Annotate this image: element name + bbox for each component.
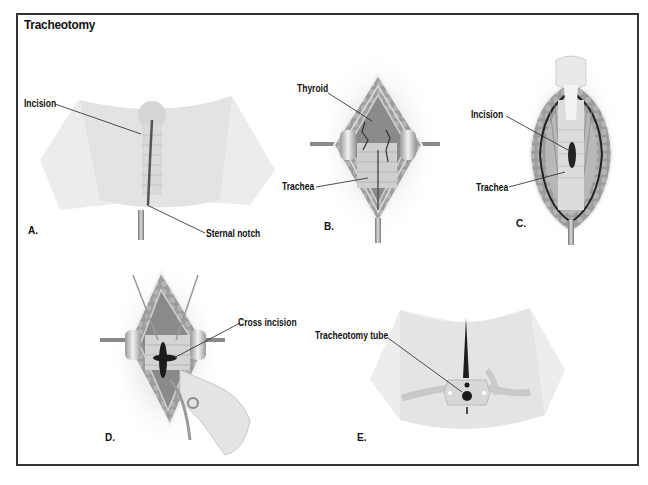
label-incision-a: Incision (24, 98, 56, 109)
scalpel-handle-c (568, 220, 574, 245)
retractor-left-d (125, 330, 141, 360)
label-incision-c: Incision (471, 109, 503, 120)
larynx-c (556, 56, 586, 89)
label-trachea-c: Trachea (476, 182, 508, 193)
panel-letter-a: A. (28, 225, 38, 236)
label-sternal-notch: Sternal notch (206, 228, 260, 239)
retractor-left-b (340, 130, 356, 160)
panel-a-neck-illustration (40, 96, 275, 240)
label-tracheotomy-tube: Tracheotomy tube (315, 330, 388, 341)
panel-letter-c: C. (516, 218, 526, 229)
incision-c (568, 142, 576, 168)
panel-e-tube-illustration (370, 308, 565, 429)
panel-letter-e: E. (357, 432, 366, 443)
panel-letter-d: D. (105, 432, 115, 443)
panel-b-thyroid-illustration (310, 50, 440, 243)
label-cross-incision: Cross incision (238, 317, 297, 328)
label-trachea-b: Trachea (282, 181, 314, 192)
scalpel-handle-b (375, 218, 381, 243)
retractor-right-b (400, 130, 416, 160)
label-thyroid: Thyroid (297, 83, 328, 94)
scalpel-handle-a (138, 210, 144, 240)
panel-letter-b: B. (324, 221, 334, 232)
panel-c-trachea-illustration (521, 50, 621, 245)
tube-opening (462, 391, 472, 401)
illustration-canvas (0, 0, 648, 485)
